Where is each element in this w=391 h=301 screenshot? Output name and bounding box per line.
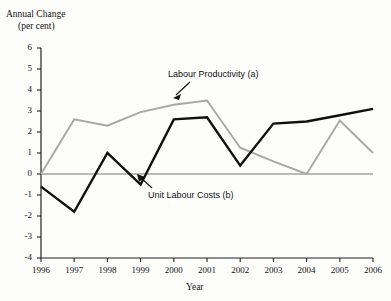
y-tick-label: -2 [18, 210, 32, 220]
plot-area [0, 0, 391, 301]
y-tick-label: 1 [18, 147, 32, 157]
x-tick-label: 2004 [290, 265, 324, 275]
y-tick-label: -3 [18, 231, 32, 241]
chart-container: Annual Change (per cent) Year Labour Pro… [0, 0, 391, 301]
arrow-head-labour-productivity [173, 94, 181, 100]
x-tick-label: 2000 [157, 265, 191, 275]
y-axis [37, 48, 41, 258]
x-tick-label: 1997 [57, 265, 91, 275]
y-tick-label: 4 [18, 84, 32, 94]
x-tick-label: 2002 [223, 265, 257, 275]
y-tick-label: -1 [18, 189, 32, 199]
y-tick-label: 0 [18, 168, 32, 178]
annotation-arrows [137, 82, 190, 188]
y-tick-label: 3 [18, 105, 32, 115]
x-tick-label: 1998 [90, 265, 124, 275]
x-tick-label: 2005 [323, 265, 357, 275]
data-series-layer [41, 101, 373, 212]
arrow-line-labour-productivity [176, 82, 190, 95]
y-tick-label: 6 [18, 42, 32, 52]
x-tick-label: 2006 [356, 265, 390, 275]
x-tick-label: 1996 [24, 265, 58, 275]
x-tick-label: 2001 [190, 265, 224, 275]
y-tick-label: -4 [18, 252, 32, 262]
y-tick-label: 2 [18, 126, 32, 136]
series-line-unit-labour-costs-b [41, 109, 373, 212]
x-tick-label: 1999 [124, 265, 158, 275]
series-line-labour-productivity-a [41, 101, 373, 175]
x-axis [41, 258, 373, 262]
x-tick-label: 2003 [256, 265, 290, 275]
y-tick-label: 5 [18, 63, 32, 73]
